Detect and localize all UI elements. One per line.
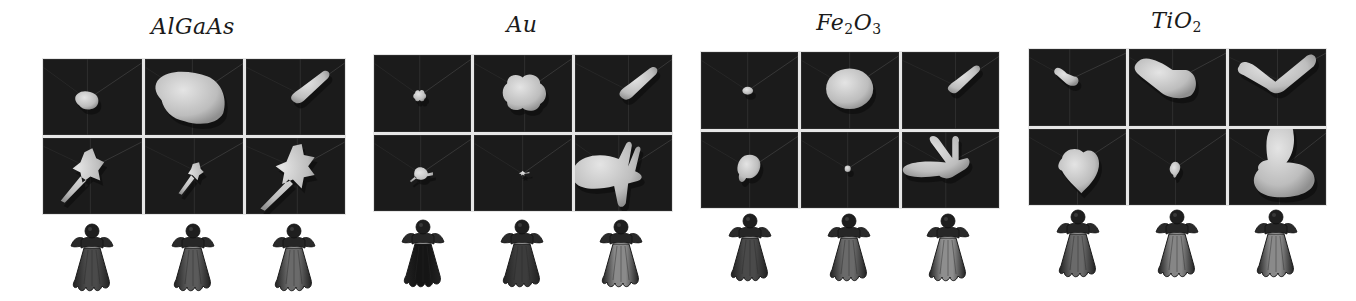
scattering-pattern-render [902,52,999,129]
axis-line [701,60,748,91]
axis-line [801,140,848,169]
rendering-cell [902,52,999,129]
rendering-cell [1029,129,1126,206]
title-subscript: 2 [1192,19,1201,35]
scattering-lobe [1254,129,1315,197]
scattering-pattern-render [246,138,345,214]
scattering-pattern-render [474,55,571,132]
title-subscript: 2 [844,21,853,37]
angel-figurine-icon [925,212,971,284]
scattering-pattern-render [145,59,244,135]
rendering-cell [246,138,345,214]
rendering-cell [43,59,142,135]
angel-figurine-icon [170,222,216,294]
angel-figurine [1154,208,1200,280]
title-text: AlGaAs [151,14,235,39]
title-text: Ti [1151,8,1174,33]
angel-figurine-icon [1154,208,1200,280]
angel-figurine-icon [1055,208,1101,280]
scattering-lobe [826,69,873,109]
rendering-grid [1028,48,1327,206]
axis-line [420,59,472,96]
axis-line [246,67,300,94]
scattering-lobe [75,91,98,109]
scattering-pattern-render [145,138,244,214]
rendering-cell [1229,49,1326,126]
scattering-lobe [845,165,851,171]
rendering-cell [801,52,898,129]
scattering-pattern-render [1029,49,1126,126]
axis-line [194,142,243,170]
figurine-row [1028,208,1325,280]
rendering-cell [902,132,999,209]
scattering-pattern-render [701,52,798,129]
angel-figurine [69,222,115,294]
rendering-cell [374,55,471,132]
scattering-lobe [413,90,426,101]
panel-title: AlGaAs [42,14,344,39]
rendering-grid [700,51,1000,209]
rendering-cell [474,55,571,132]
scattering-pattern-render [902,132,999,209]
scattering-pattern-render [575,55,672,132]
angel-figurine [598,218,644,290]
scattering-lobe [503,74,546,110]
title-text: Au [506,12,537,37]
angel-figurine [826,212,872,284]
scattering-pattern-render [1029,129,1126,206]
angel-figurine [271,222,317,294]
angel-figurine [400,218,446,290]
rendering-cell [145,138,244,214]
panel-title: Au [373,12,671,37]
scattering-pattern-render [374,135,471,212]
scattering-pattern-render [801,132,898,209]
axis-line [1129,137,1176,168]
scattering-pattern-render [474,135,571,212]
rendering-cell [1229,129,1326,206]
rendering-grid [373,54,673,212]
axis-line [748,56,799,91]
title-subscript: 3 [872,21,881,37]
scattering-lobe [519,170,530,175]
axis-line [87,63,141,99]
scattering-pattern-render [701,132,798,209]
axis-line [374,143,421,174]
rendering-cell [374,135,471,212]
rendering-cell [474,135,571,212]
title-text: O [1174,8,1193,33]
rendering-cell [575,135,672,212]
rendering-cell [1129,129,1226,206]
angel-figurine-icon [69,222,115,294]
rendering-cell [701,52,798,129]
axis-line [474,143,523,174]
angel-figurine [499,218,545,290]
scattering-lobe [61,148,104,203]
panel-fe2o3: Fe2O3 [700,0,998,301]
panel-title: TiO2 [1028,8,1325,35]
axis-line [902,60,956,86]
rendering-cell [1129,49,1226,126]
figurine-row [700,212,998,284]
axis-line [1070,53,1126,80]
angel-figurine-icon [400,218,446,290]
figurine-row [373,218,671,290]
panel-au: Au [373,0,671,301]
scattering-pattern-render [246,59,345,135]
panel-algaas: AlGaAs [42,0,344,301]
axis-line [374,63,420,96]
title-text: Fe [816,10,844,35]
axis-line [1176,133,1226,168]
axis-line [523,139,572,174]
panel-title: Fe2O3 [700,10,998,37]
angel-figurine [925,212,971,284]
rendering-cell [145,59,244,135]
scattering-pattern-render [1229,129,1326,206]
angel-figurine [170,222,216,294]
rendering-cell [575,55,672,132]
angel-figurine [727,212,773,284]
scattering-pattern-render [1129,129,1226,206]
rendering-cell [43,138,142,214]
rendering-cell [701,132,798,209]
rendering-grid [42,58,346,215]
axis-line [848,136,899,169]
